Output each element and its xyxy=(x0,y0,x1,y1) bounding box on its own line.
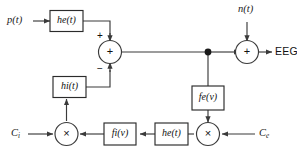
input-label-n: n(t) xyxy=(238,4,253,15)
input-label-ci: Ci xyxy=(11,128,20,139)
sign-plus-label: + xyxy=(97,31,103,41)
input-label-ce-main: C xyxy=(259,127,266,138)
input-label-ce: Ce xyxy=(259,128,269,139)
multiplier-right-symbol: × xyxy=(198,128,218,139)
sign-minus-label: − xyxy=(97,64,103,74)
block-label-fe: fe(v) xyxy=(192,92,224,102)
summing-junction-right-symbol: + xyxy=(237,46,257,57)
block-label-hi: hi(t) xyxy=(53,81,86,91)
input-label-ci-main: C xyxy=(11,127,18,138)
diagram-wiring-layer xyxy=(0,0,297,157)
junction-dot xyxy=(205,49,212,56)
input-label-n-text: n(t) xyxy=(238,3,253,14)
block-label-fe-arg: (v) xyxy=(206,91,217,102)
block-label-he-top-arg: (t) xyxy=(67,14,76,25)
block-label-fi: fi(v) xyxy=(104,128,136,138)
output-label-eeg: EEG xyxy=(275,46,297,57)
input-label-ci-sub: i xyxy=(18,132,20,140)
summing-junction-left-symbol: + xyxy=(100,46,120,57)
block-label-hi-arg: (t) xyxy=(69,80,78,91)
input-label-ce-sub: e xyxy=(266,132,269,140)
multiplier-left-symbol: × xyxy=(57,128,77,139)
block-label-he-top: he(t) xyxy=(50,15,83,25)
block-label-he-bottom-arg: (t) xyxy=(172,127,181,138)
input-label-p: p(t) xyxy=(7,15,22,26)
block-diagram-canvas: p(t) n(t) Ci Ce EEG he(t) hi(t) fe(v) fi… xyxy=(0,0,297,157)
input-label-p-text: p(t) xyxy=(7,14,22,25)
block-label-he-bottom: he(t) xyxy=(155,128,188,138)
block-label-fi-arg: (v) xyxy=(117,127,128,138)
